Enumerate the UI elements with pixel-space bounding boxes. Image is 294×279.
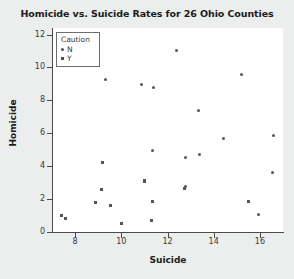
y-tick-mark bbox=[47, 133, 52, 134]
y-tick-mark bbox=[47, 35, 52, 36]
data-point[interactable] bbox=[247, 200, 250, 203]
x-tick-label: 14 bbox=[204, 237, 224, 246]
x-axis-title: Suicide bbox=[52, 255, 284, 265]
legend-marker-circle-icon bbox=[61, 48, 64, 51]
x-tick-label: 8 bbox=[65, 237, 85, 246]
legend-label-y: Y bbox=[67, 54, 72, 63]
data-point[interactable] bbox=[60, 214, 63, 217]
legend-title: Caution bbox=[61, 35, 95, 45]
x-tick-label: 12 bbox=[158, 237, 178, 246]
y-tick-label: 8 bbox=[28, 95, 45, 104]
legend: Caution N Y bbox=[56, 32, 100, 67]
legend-marker-square-icon bbox=[61, 57, 64, 60]
data-point[interactable] bbox=[152, 86, 155, 89]
data-point[interactable] bbox=[183, 187, 186, 190]
y-tick-mark bbox=[47, 166, 52, 167]
y-tick-label: 12 bbox=[28, 30, 45, 39]
legend-item-n[interactable]: N bbox=[61, 45, 95, 54]
page-title: Homicide vs. Suicide Rates for 26 Ohio C… bbox=[0, 8, 294, 19]
data-point[interactable] bbox=[94, 201, 97, 204]
data-point[interactable] bbox=[197, 109, 200, 112]
data-point[interactable] bbox=[104, 78, 107, 81]
y-tick-mark bbox=[47, 199, 52, 200]
y-tick-label: 2 bbox=[28, 194, 45, 203]
data-point[interactable] bbox=[151, 200, 154, 203]
legend-item-y[interactable]: Y bbox=[61, 54, 95, 63]
data-point[interactable] bbox=[150, 219, 153, 222]
y-tick-label: 6 bbox=[28, 128, 45, 137]
y-axis-title: Homicide bbox=[8, 91, 18, 155]
x-tick-label: 10 bbox=[111, 237, 131, 246]
y-tick-mark bbox=[47, 232, 52, 233]
y-tick-mark bbox=[47, 100, 52, 101]
y-tick-label: 10 bbox=[28, 62, 45, 71]
y-tick-label: 4 bbox=[28, 161, 45, 170]
data-point[interactable] bbox=[120, 222, 123, 225]
data-point[interactable] bbox=[64, 217, 67, 220]
scatter-plot-figure: Homicide vs. Suicide Rates for 26 Ohio C… bbox=[0, 0, 294, 279]
x-tick-label: 16 bbox=[250, 237, 270, 246]
data-point[interactable] bbox=[143, 179, 146, 182]
data-point[interactable] bbox=[100, 188, 103, 191]
data-point[interactable] bbox=[151, 149, 154, 152]
y-axis-line bbox=[52, 28, 53, 233]
y-tick-mark bbox=[47, 67, 52, 68]
data-point[interactable] bbox=[109, 204, 112, 207]
data-point[interactable] bbox=[101, 161, 104, 164]
legend-label-n: N bbox=[67, 45, 73, 54]
y-tick-label: 0 bbox=[28, 227, 45, 236]
